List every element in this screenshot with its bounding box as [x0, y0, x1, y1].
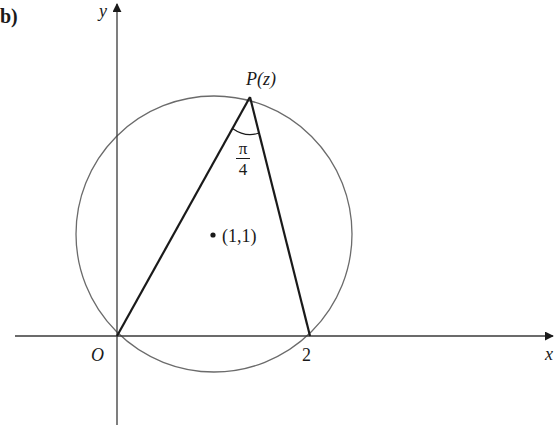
argand-diagram: [0, 0, 555, 431]
center-point-label: (1,1): [222, 227, 257, 245]
angle-numerator: π: [233, 140, 253, 158]
angle-arc: [233, 129, 260, 135]
chord-two-to-p: [250, 97, 310, 336]
point-p-text: P(z): [246, 69, 276, 89]
point-p-label: P(z): [246, 70, 276, 88]
x-axis-label: x: [545, 345, 553, 363]
angle-label: π 4: [233, 140, 253, 178]
center-point-dot: [210, 232, 215, 237]
chord-o-to-p: [117, 97, 250, 336]
angle-denominator: 4: [233, 159, 253, 178]
y-axis-label: y: [99, 2, 107, 20]
origin-label: O: [91, 346, 104, 364]
part-label: b): [0, 6, 18, 26]
x-tick-label-two: 2: [302, 346, 311, 364]
